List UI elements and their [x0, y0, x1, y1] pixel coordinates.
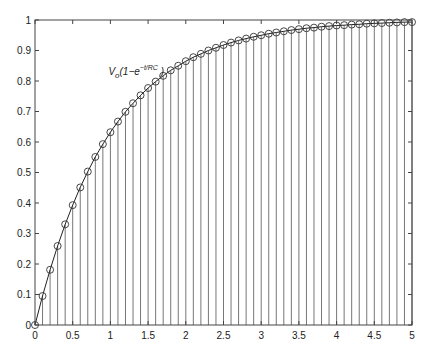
- x-tick-label: 1.5: [141, 330, 155, 341]
- x-tick-label: 2: [183, 330, 189, 341]
- x-tick-label: 2.5: [217, 330, 231, 341]
- x-tick-label: 1: [108, 330, 114, 341]
- y-tick-label: 0.1: [17, 289, 31, 300]
- x-tick-label: 3.5: [292, 330, 306, 341]
- y-tick-label: 0.5: [17, 167, 31, 178]
- y-tick-label: 0.3: [17, 228, 31, 239]
- y-tick-label: 0.6: [17, 137, 31, 148]
- y-tick-label: 0.4: [17, 198, 31, 209]
- y-tick-label: 0.7: [17, 106, 31, 117]
- y-tick-label: 1: [25, 15, 31, 26]
- stem-plot: 00.511.522.533.544.55 00.10.20.30.40.50.…: [0, 0, 432, 353]
- x-tick-label: 4.5: [367, 330, 381, 341]
- y-tick-label: 0: [25, 320, 31, 331]
- y-tick-label: 0.9: [17, 45, 31, 56]
- y-tick-label: 0.2: [17, 259, 31, 270]
- x-tick-label: 4: [334, 330, 340, 341]
- x-tick-label: 0.5: [66, 330, 80, 341]
- x-tick-label: 0: [32, 330, 38, 341]
- y-tick-label: 0.8: [17, 76, 31, 87]
- x-tick-label: 5: [409, 330, 415, 341]
- x-tick-label: 3: [258, 330, 264, 341]
